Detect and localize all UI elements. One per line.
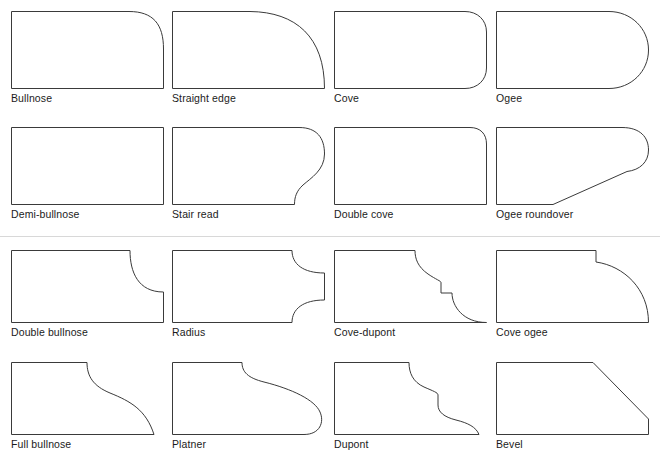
- profile-cell: Bevel: [496, 362, 649, 450]
- edge-profile-double-bullnose-icon: [11, 250, 164, 323]
- profile-outline: [335, 363, 480, 435]
- profile-outline: [497, 12, 649, 89]
- profile-label: Straight edge: [172, 92, 325, 104]
- edge-profile-ogee-roundover-icon: [496, 127, 649, 205]
- edge-profile-cove-ogee-icon: [496, 250, 649, 323]
- profile-label: Radius: [172, 326, 325, 338]
- profile-outline: [497, 128, 649, 205]
- profile-label: Demi-bullnose: [11, 208, 164, 220]
- edge-profile-chart: BullnoseStraight edgeCoveOgeeDemi-bullno…: [0, 0, 660, 463]
- profile-label: Double bullnose: [11, 326, 164, 338]
- profile-cell: Demi-bullnose: [11, 127, 164, 220]
- profile-cell: Ogee: [496, 11, 649, 104]
- profile-cell: Ogee roundover: [496, 127, 649, 220]
- profile-label: Ogee: [496, 92, 649, 104]
- profile-cell: Cove: [334, 11, 487, 104]
- profile-outline: [12, 128, 164, 205]
- profile-outline: [173, 12, 325, 89]
- profile-outline: [335, 251, 487, 323]
- profile-label: Bevel: [496, 438, 649, 450]
- edge-profile-full-bullnose-icon: [11, 362, 164, 435]
- profile-cell: Radius: [172, 250, 325, 338]
- profile-label: Stair read: [172, 208, 325, 220]
- profile-outline: [12, 251, 164, 323]
- profile-cell: Bullnose: [11, 11, 164, 104]
- edge-profile-straight-edge-icon: [172, 11, 325, 89]
- profile-cell: Stair read: [172, 127, 325, 220]
- profile-cell: Cove ogee: [496, 250, 649, 338]
- profile-outline: [335, 12, 487, 89]
- profile-cell: Full bullnose: [11, 362, 164, 450]
- profile-label: Double cove: [334, 208, 487, 220]
- edge-profile-radius-icon: [172, 250, 325, 323]
- profile-cell: Double cove: [334, 127, 487, 220]
- profile-cell: Platner: [172, 362, 325, 450]
- profile-label: Cove: [334, 92, 487, 104]
- profile-label: Ogee roundover: [496, 208, 649, 220]
- profile-outline: [335, 128, 487, 205]
- profile-label: Bullnose: [11, 92, 164, 104]
- profile-outline: [173, 128, 325, 205]
- profile-cell: Dupont: [334, 362, 487, 450]
- edge-profile-bullnose-icon: [11, 11, 164, 89]
- edge-profile-cove-icon: [334, 11, 487, 89]
- edge-profile-stair-read-icon: [172, 127, 325, 205]
- profile-label: Cove ogee: [496, 326, 649, 338]
- profile-cell: Cove-dupont: [334, 250, 487, 338]
- edge-profile-dupont-icon: [334, 362, 487, 435]
- section-divider: [0, 236, 660, 237]
- edge-profile-bevel-icon: [496, 362, 649, 435]
- profile-label: Dupont: [334, 438, 487, 450]
- profile-label: Full bullnose: [11, 438, 164, 450]
- profile-outline: [12, 12, 164, 89]
- profile-outline: [173, 251, 325, 323]
- profile-label: Cove-dupont: [334, 326, 487, 338]
- profile-cell: Double bullnose: [11, 250, 164, 338]
- profile-outline: [497, 251, 649, 323]
- profile-cell: Straight edge: [172, 11, 325, 104]
- edge-profile-platner-icon: [172, 362, 325, 435]
- edge-profile-double-cove-icon: [334, 127, 487, 205]
- profile-outline: [12, 363, 155, 435]
- edge-profile-cove-dupont-icon: [334, 250, 487, 323]
- edge-profile-demi-bullnose-icon: [11, 127, 164, 205]
- edge-profile-ogee-icon: [496, 11, 649, 89]
- profile-outline: [497, 363, 649, 435]
- profile-outline: [173, 363, 322, 435]
- profile-label: Platner: [172, 438, 325, 450]
